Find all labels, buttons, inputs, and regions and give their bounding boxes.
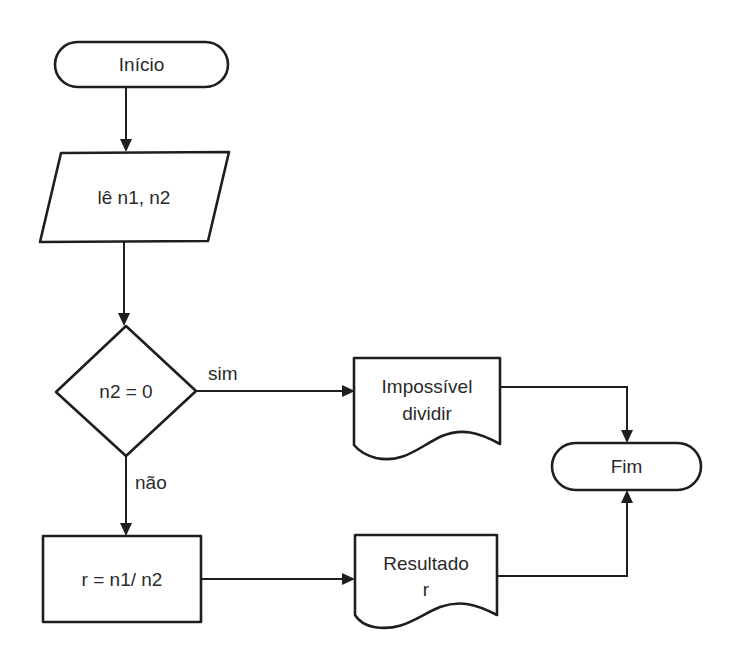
arrowhead-icon — [120, 139, 132, 152]
edge-label-yes: sim — [208, 363, 238, 384]
node-end-label: Fim — [611, 456, 643, 477]
node-error-output-label-line2: dividir — [402, 403, 452, 424]
arrowhead-icon — [621, 490, 633, 503]
node-result-output: Resultado r — [355, 535, 497, 628]
node-process-label: r = n1/ n2 — [82, 569, 163, 590]
node-input: lê n1, n2 — [40, 152, 229, 242]
node-process: r = n1/ n2 — [43, 536, 201, 622]
edge-process-to-result-output — [201, 573, 355, 585]
edge-error-output-to-end — [500, 387, 633, 443]
node-end: Fim — [552, 443, 701, 490]
arrowhead-icon — [120, 523, 132, 536]
edge-decision-to-process: não — [120, 456, 167, 536]
node-error-output-label-line1: Impossível — [382, 376, 473, 397]
node-result-output-label-line1: Resultado — [383, 553, 469, 574]
edge-label-no: não — [135, 472, 167, 493]
node-decision: n2 = 0 — [56, 326, 196, 456]
node-start-label: Início — [119, 54, 164, 75]
node-error-output: Impossível dividir — [354, 358, 500, 459]
edge-input-to-decision — [118, 242, 130, 326]
arrowhead-icon — [118, 313, 130, 326]
node-result-output-label-line2: r — [423, 579, 430, 600]
node-input-label: lê n1, n2 — [98, 187, 171, 208]
node-start: Início — [55, 42, 228, 87]
edge-start-to-input — [120, 88, 132, 152]
node-decision-label: n2 = 0 — [99, 381, 152, 402]
arrowhead-icon — [621, 430, 633, 443]
edge-decision-to-error-output: sim — [196, 363, 355, 397]
edge-result-output-to-end — [497, 490, 633, 576]
flowchart-canvas: sim não Início lê n1, n2 n2 = 0 r = n1/ … — [0, 0, 737, 664]
arrowhead-icon — [342, 573, 355, 585]
